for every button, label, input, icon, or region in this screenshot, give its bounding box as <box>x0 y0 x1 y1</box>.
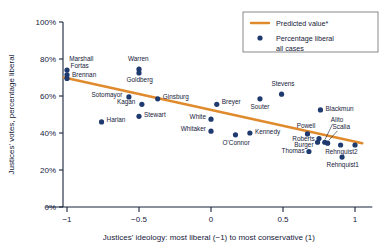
data-point-rehnquist2[interactable] <box>338 142 343 147</box>
y-tick-label-40: 40% <box>40 129 56 138</box>
data-point-goldberg[interactable] <box>136 70 141 75</box>
point-label-warren: Warren <box>128 55 149 62</box>
data-point-white[interactable] <box>208 117 213 122</box>
data-point-stevens[interactable] <box>279 92 284 97</box>
data-point-ginsburg[interactable] <box>155 96 160 101</box>
point-label-fortas: Fortas <box>71 62 89 69</box>
point-label-goldberg: Goldberg <box>127 76 154 84</box>
y-tick-label-100: 100% <box>36 18 56 27</box>
data-point-whitaker[interactable] <box>208 129 213 134</box>
point-label-ginsburg: Ginsburg <box>163 93 189 101</box>
x-tick-label-4: 1 <box>353 215 358 224</box>
y-tick-label-0: 0% <box>44 203 56 212</box>
data-point-marshall[interactable] <box>64 68 69 73</box>
data-point-burger[interactable] <box>315 140 320 145</box>
data-point-breyer[interactable] <box>214 102 219 107</box>
legend-label-all-cases: all cases <box>276 44 304 53</box>
point-label-white: White <box>190 113 207 120</box>
data-point-thomas[interactable] <box>306 149 311 154</box>
point-label-thomas: Thomas <box>282 147 305 154</box>
data-point-unlabeled-26[interactable] <box>352 142 357 147</box>
point-label-kagan: Kagan <box>117 98 136 106</box>
data-point-brennan[interactable] <box>64 76 69 81</box>
legend-box <box>243 12 378 52</box>
data-point-souter[interactable] <box>257 96 262 101</box>
data-point-harlan[interactable] <box>99 119 104 124</box>
y-tick-label-80: 80% <box>40 55 56 64</box>
point-label-brennan: Brennan <box>72 71 97 78</box>
point-label-powell: Powell <box>297 122 316 129</box>
data-point-stewart[interactable] <box>136 114 141 119</box>
point-label-kennedy: Kennedy <box>255 128 281 136</box>
data-point-kennedy[interactable] <box>247 130 252 135</box>
data-point-o-connor[interactable] <box>233 132 238 137</box>
point-label-scalia: Scalia <box>333 123 351 130</box>
x-tick-label-2: 0 <box>209 215 214 224</box>
point-label-rehnquist1: Rehnquist1 <box>327 161 360 169</box>
legend-dot-swatch <box>257 35 262 40</box>
point-label-souter: Souter <box>251 103 271 110</box>
point-label-o-connor: O'Connor <box>223 139 251 146</box>
y-tick-label-20: 20% <box>40 166 56 175</box>
x-tick-label-3: 0.5 <box>277 215 289 224</box>
point-label-whitaker: Whitaker <box>181 125 207 132</box>
x-axis-title: Justices' ideology: most liberal (−1) to… <box>103 233 315 242</box>
predicted-value-line <box>64 78 362 144</box>
legend-label-percentage-liberal: Percentage liberal <box>276 34 334 43</box>
data-point-scalia[interactable] <box>325 141 330 146</box>
data-point-rehnquist1[interactable] <box>339 154 344 159</box>
point-label-blackmun: Blackmun <box>325 105 354 112</box>
point-label-marshall: Marshall <box>69 55 93 62</box>
point-label-alito: Alito <box>331 116 344 123</box>
point-label-stewart: Stewart <box>144 111 166 118</box>
point-label-stevens: Stevens <box>271 80 294 87</box>
y-tick-label-60: 60% <box>40 92 56 101</box>
data-point-kagan[interactable] <box>139 102 144 107</box>
point-label-breyer: Breyer <box>222 98 242 106</box>
y-axis-title: Justices' votes, percentage liberal <box>7 54 16 174</box>
x-tick-label-1: −0.5 <box>131 215 147 224</box>
scatter-plot: 0%20%40%60%80%100%−1−0.500.51Justices' i… <box>0 0 389 251</box>
chart-container: 0%20%40%60%80%100%−1−0.500.51Justices' i… <box>0 0 389 251</box>
x-tick-label-0: −1 <box>62 215 72 224</box>
data-point-blackmun[interactable] <box>318 107 323 112</box>
point-label-harlan: Harlan <box>107 116 126 123</box>
legend-label-predicted-value: Predicted value* <box>276 19 329 28</box>
